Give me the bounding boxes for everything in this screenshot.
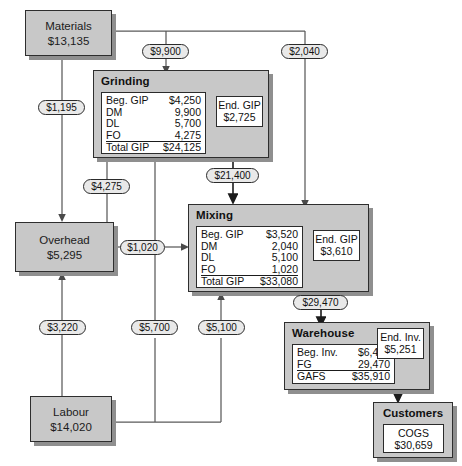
overhead-amount: $5,295 <box>16 249 113 261</box>
warehouse-ending-label: End. Inv. <box>378 331 423 343</box>
warehouse-row-label: GAFS <box>297 371 345 383</box>
mixing-ending-inventory-box[interactable]: End. GIP $3,610 <box>313 230 360 261</box>
table-row: Total GIP$33,080 <box>201 276 298 288</box>
overhead-title: Overhead <box>16 234 113 246</box>
mixing-row-value: $33,080 <box>253 276 298 288</box>
warehouse-title: Warehouse <box>292 327 354 339</box>
warehouse-ending-value: $5,251 <box>378 343 423 355</box>
warehouse-ending-inventory-box[interactable]: End. Inv. $5,251 <box>377 328 424 359</box>
grinding-row-value: 4,275 <box>157 130 201 142</box>
table-row: GAFS$35,910 <box>297 371 390 383</box>
materials-box[interactable]: Materials $13,135 <box>25 10 112 56</box>
flow-label-labour-to-grinding[interactable]: $5,700 <box>131 320 178 335</box>
cost-flow-diagram: Materials $13,135 Overhead $5,295 Labour… <box>0 0 462 466</box>
mixing-ending-label: End. GIP <box>314 233 359 245</box>
mixing-table: Beg. GIP$3,520 DM2,040 DL5,100 FO1,020 T… <box>196 226 303 288</box>
table-row: FO4,275 <box>106 130 201 142</box>
flow-label-mat-to-grinding[interactable]: $9,900 <box>142 44 189 59</box>
customers-table: COGS $30,659 <box>383 424 444 453</box>
table-row: FO1,020 <box>201 264 298 276</box>
mixing-row-value: $3,520 <box>253 229 298 241</box>
mixing-row-value: 1,020 <box>253 264 298 276</box>
labour-box[interactable]: Labour $14,020 <box>30 396 112 442</box>
warehouse-department[interactable]: Warehouse Beg. Inv.$6,440 FG29,470 GAFS$… <box>284 322 430 390</box>
grinding-department[interactable]: Grinding Beg. GIP$4,250 DM9,900 DL5,700 … <box>93 70 269 158</box>
mixing-ending-value: $3,610 <box>314 245 359 257</box>
materials-title: Materials <box>26 20 111 32</box>
grinding-row-label: FO <box>106 130 157 142</box>
labour-title: Labour <box>31 406 111 418</box>
customers-cogs-label: COGS <box>388 427 439 439</box>
warehouse-row-label: Beg. Inv. <box>297 347 345 359</box>
mixing-row-label: Beg. GIP <box>201 229 253 241</box>
grinding-ending-inventory-box[interactable]: End. GIP $2,725 <box>216 96 263 127</box>
warehouse-row-label: FG <box>297 359 345 371</box>
flow-label-grinding-to-mixing[interactable]: $21,400 <box>206 168 259 183</box>
table-row: FG29,470 <box>297 359 390 371</box>
grinding-ending-value: $2,725 <box>217 111 262 123</box>
flow-label-overhead-to-mixing[interactable]: $1,020 <box>120 240 165 255</box>
flow-label-mixing-to-warehouse[interactable]: $29,470 <box>293 295 348 310</box>
warehouse-row-value: 29,470 <box>345 359 390 371</box>
mixing-department[interactable]: Mixing Beg. GIP$3,520 DM2,040 DL5,100 FO… <box>188 204 369 292</box>
grinding-table: Beg. GIP$4,250 DM9,900 DL5,700 FO4,275 T… <box>101 92 206 154</box>
flow-label-mat-to-mixing[interactable]: $2,040 <box>281 44 328 59</box>
mixing-row-label: Total GIP <box>201 276 253 288</box>
grinding-title: Grinding <box>101 75 150 87</box>
overhead-box[interactable]: Overhead $5,295 <box>15 222 114 272</box>
flow-label-mat-to-overhead[interactable]: $1,195 <box>38 100 85 115</box>
grinding-row-value: $4,250 <box>157 95 201 107</box>
customers-cogs-value: $30,659 <box>388 439 439 451</box>
mixing-row-label: FO <box>201 264 253 276</box>
table-row: Beg. GIP$4,250 <box>106 95 201 107</box>
grinding-ending-label: End. GIP <box>217 99 262 111</box>
grinding-row-label: Beg. GIP <box>106 95 157 107</box>
customers-title: Customers <box>374 407 452 419</box>
materials-amount: $13,135 <box>26 35 111 47</box>
table-row: Beg. GIP$3,520 <box>201 229 298 241</box>
flow-label-overhead-to-grinding[interactable]: $4,275 <box>83 179 130 194</box>
mixing-title: Mixing <box>196 209 233 221</box>
table-row: Total GIP$24,125 <box>106 142 201 154</box>
flow-label-labour-to-mixing[interactable]: $5,100 <box>198 320 245 335</box>
grinding-row-value: $24,125 <box>157 142 201 154</box>
grinding-row-label: Total GIP <box>106 142 157 154</box>
labour-amount: $14,020 <box>31 421 111 433</box>
customers-box[interactable]: Customers COGS $30,659 <box>373 402 453 458</box>
flow-label-labour-to-overhead[interactable]: $3,220 <box>39 320 86 335</box>
warehouse-row-value: $35,910 <box>345 371 390 383</box>
